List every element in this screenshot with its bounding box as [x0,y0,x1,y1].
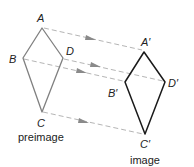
label-c: C [37,117,45,129]
preimage-caption: preimage [18,131,64,143]
label-b-prime: B′ [108,87,118,99]
label-b: B [9,53,16,65]
label-a: A [36,12,44,24]
image-caption: image [130,154,160,166]
label-d: D [66,45,74,57]
label-d-prime: D′ [168,77,179,89]
preimage-kite [23,28,63,112]
arrow-a-to-a-prime [44,28,142,50]
translation-diagram: A D B C preimage A′ D′ B′ C′ image [0,0,194,167]
label-a-prime: A′ [140,36,151,48]
arrow-b-to-b-prime [24,59,123,81]
label-c-prime: C′ [140,138,151,150]
image-kite [125,52,165,134]
